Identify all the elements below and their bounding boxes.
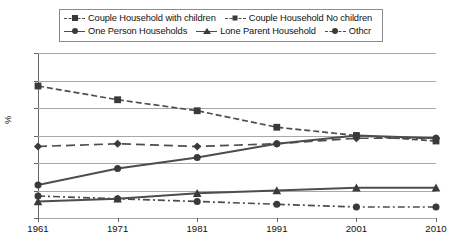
chart-figure: Couple Household with children Couple Ho… <box>0 0 454 251</box>
x-axis-tick-mark <box>38 218 39 222</box>
data-point-circle-marker <box>433 204 440 211</box>
series-line <box>38 196 436 207</box>
gridline <box>38 218 436 219</box>
legend-label: Couple Household with children <box>88 14 216 23</box>
data-point-circle-marker <box>114 165 121 172</box>
data-point-square-marker <box>194 107 201 114</box>
legend-item-couple-with-children: Couple Household with children <box>64 14 216 23</box>
data-point-diamond-marker <box>193 142 201 150</box>
series-line <box>38 86 436 141</box>
chart-legend: Couple Household with children Couple Ho… <box>59 9 383 42</box>
x-axis-tick-label: 2001 <box>333 224 379 234</box>
x-axis-tick-mark <box>356 218 357 222</box>
legend-item-other: Othcr <box>325 27 371 36</box>
legend-item-lone-parent: Lone Parent Household <box>196 27 316 36</box>
data-point-circle-marker <box>273 201 280 208</box>
legend-item-one-person: One Person Households <box>64 27 187 36</box>
series-layer <box>38 53 436 218</box>
x-axis-tick-label: 2010 <box>413 224 454 234</box>
data-point-square-marker <box>114 96 121 103</box>
data-point-circle-marker <box>194 198 201 205</box>
legend-key-circle-dashdot-icon <box>325 27 346 36</box>
x-axis-tick-label: 1971 <box>95 224 141 234</box>
legend-key-circle-solid-icon <box>64 27 85 36</box>
plot-area: 6050403020100 196119711981199120012010 <box>38 53 436 218</box>
legend-item-couple-no-children: Couple Household No children <box>225 14 372 23</box>
legend-row: Couple Household with children Couple Ho… <box>64 12 378 25</box>
data-point-circle-marker <box>353 132 360 139</box>
data-point-diamond-marker <box>114 140 122 148</box>
legend-key-triangle-solid-icon <box>196 27 217 36</box>
series-3 <box>35 132 440 189</box>
data-point-circle-marker <box>114 195 121 202</box>
legend-key-square-dashed-icon <box>64 14 85 23</box>
data-point-circle-marker <box>194 154 201 161</box>
legend-label: Couple Household No children <box>249 14 372 23</box>
series-4 <box>34 183 441 205</box>
legend-row: One Person Households Lone Parent Househ… <box>64 25 378 38</box>
x-axis-tick-mark <box>197 218 198 222</box>
data-point-circle-marker <box>35 182 42 189</box>
x-axis-tick-label: 1981 <box>174 224 220 234</box>
x-axis-tick-mark <box>436 218 437 222</box>
data-point-circle-marker <box>433 135 440 142</box>
series-line <box>38 188 436 202</box>
data-point-circle-marker <box>35 193 42 200</box>
data-point-circle-marker <box>273 140 280 147</box>
series-line <box>38 136 436 186</box>
x-axis-tick-mark <box>118 218 119 222</box>
series-line <box>38 138 436 146</box>
x-axis-tick-mark <box>277 218 278 222</box>
data-point-square-marker <box>273 124 280 131</box>
data-point-diamond-marker <box>34 142 42 150</box>
y-axis-label: % <box>2 116 13 124</box>
x-axis-tick-label: 1961 <box>15 224 61 234</box>
legend-label: Lone Parent Household <box>220 27 316 36</box>
series-1 <box>35 83 440 145</box>
data-point-square-marker <box>35 83 42 90</box>
series-5 <box>35 193 440 211</box>
data-point-circle-marker <box>353 204 360 211</box>
x-axis-tick-label: 1991 <box>254 224 300 234</box>
legend-label: One Person Households <box>88 27 187 36</box>
legend-label: Othcr <box>349 27 371 36</box>
legend-key-diamond-dashed-icon <box>225 14 246 23</box>
